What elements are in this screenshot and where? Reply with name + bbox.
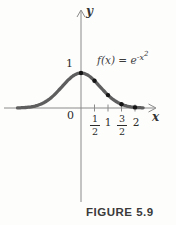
fraction-denominator: 2: [92, 126, 98, 137]
function-curve: [18, 73, 144, 108]
x-tick-label-one: 1: [105, 116, 112, 128]
figure-caption: FIGURE 5.9: [86, 206, 154, 218]
function-exponent: -x: [137, 53, 144, 62]
y-axis-label: y: [86, 5, 93, 17]
curve-point: [119, 102, 123, 106]
origin-label: 0: [67, 110, 74, 121]
function-label-lhs: f(x) = e: [97, 54, 137, 66]
curve-point: [79, 71, 83, 75]
fraction-numerator: 3: [117, 114, 127, 126]
curve-point: [92, 79, 96, 83]
fraction-denominator: 2: [119, 126, 125, 137]
curve-point: [133, 105, 137, 109]
x-tick-label-one-half: 1 2: [90, 114, 100, 137]
x-axis-label: x: [152, 111, 159, 123]
curve-point: [106, 93, 110, 97]
x-tick-label-three-halves: 3 2: [117, 114, 127, 137]
function-label: f(x) = e-x2: [97, 50, 148, 66]
figure-5-9: y x 1 0 f(x) = e-x2 1 2 1 3 2 2 FIGURE 5…: [0, 0, 176, 225]
fraction-numerator: 1: [90, 114, 100, 126]
plot-canvas: [0, 0, 176, 225]
x-tick-label-two: 2: [133, 116, 140, 128]
y-value-label-1: 1: [66, 58, 73, 69]
function-exponent-power: 2: [144, 50, 148, 58]
